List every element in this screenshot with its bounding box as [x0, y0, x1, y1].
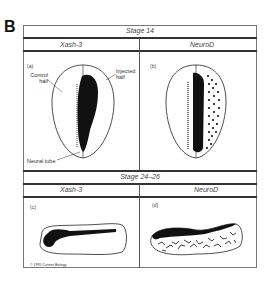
embryo-c [40, 224, 127, 255]
embryo-d [151, 224, 243, 255]
embryo-b [166, 65, 226, 158]
embryo-drawings [0, 0, 270, 281]
embryo-a [48, 65, 116, 160]
